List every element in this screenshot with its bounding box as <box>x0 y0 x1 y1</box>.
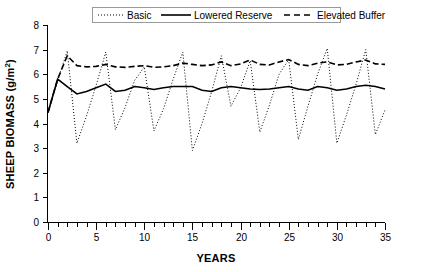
y-tick-label: 1 <box>33 192 39 203</box>
legend: BasicLowered ReserveElevated Buffer <box>93 8 386 23</box>
y-axis-ticks <box>43 26 48 223</box>
y-tick-label: 7 <box>33 45 39 56</box>
y-tick-label: 3 <box>33 143 39 154</box>
x-tick-label: 15 <box>187 232 199 243</box>
y-tick-label: 4 <box>33 119 39 130</box>
y-axis-title: SHEEP BIOMASS (g/m2) <box>3 59 17 189</box>
legend-label-lowered-reserve: Lowered Reserve <box>194 10 273 21</box>
x-tick-label: 30 <box>332 232 344 243</box>
legend-items: BasicLowered ReserveElevated Buffer <box>98 10 386 21</box>
y-tick-label: 6 <box>33 69 39 80</box>
y-axis-title-exponent: 2 <box>3 63 12 68</box>
x-axis-ticks <box>49 223 386 230</box>
plot-area: 012345678 05101520253035 <box>33 20 391 243</box>
x-axis-minor-ticks <box>59 223 376 227</box>
x-axis-tick-labels: 05101520253035 <box>46 232 392 243</box>
x-tick-label: 10 <box>139 232 151 243</box>
x-tick-label: 20 <box>236 232 248 243</box>
y-tick-label: 8 <box>33 20 39 31</box>
data-series-group <box>48 48 385 150</box>
x-tick-label: 25 <box>284 232 296 243</box>
x-axis-title: YEARS <box>197 252 236 264</box>
legend-label-basic: Basic <box>127 10 151 21</box>
x-tick-label: 0 <box>46 232 52 243</box>
y-tick-label: 0 <box>33 217 39 228</box>
legend-label-elevated-buffer: Elevated Buffer <box>317 10 386 21</box>
y-tick-label: 2 <box>33 168 39 179</box>
series-line-lowered-reserve <box>48 79 385 112</box>
y-tick-label: 5 <box>33 94 39 105</box>
sheep-biomass-line-chart: 012345678 05101520253035 YEARS SHEEP BIO… <box>0 0 427 272</box>
x-tick-label: 5 <box>94 232 100 243</box>
y-axis-tick-labels: 012345678 <box>33 20 39 228</box>
series-line-elevated-buffer <box>48 56 385 113</box>
chart-figure: 012345678 05101520253035 YEARS SHEEP BIO… <box>0 0 427 272</box>
x-tick-label: 35 <box>380 232 392 243</box>
